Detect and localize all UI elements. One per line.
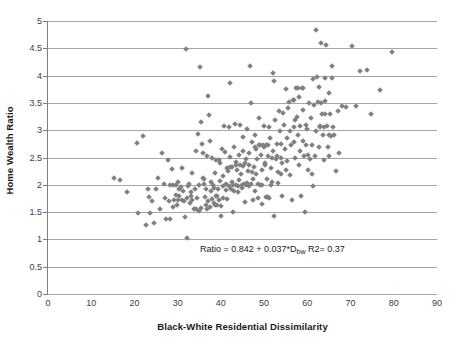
gridline (48, 21, 437, 22)
data-point (268, 165, 274, 171)
annotation-subscript: bw (297, 248, 306, 255)
data-point (247, 63, 253, 69)
y-tick-label: 2.5 (0, 153, 42, 163)
data-point (283, 167, 289, 173)
data-point (321, 157, 327, 163)
data-point (242, 199, 248, 205)
data-point (389, 49, 395, 55)
data-point (353, 103, 359, 109)
data-point (330, 63, 336, 69)
y-tick-label: 0.5 (0, 262, 42, 272)
data-point (169, 166, 175, 172)
data-point (284, 135, 290, 141)
data-point (230, 209, 236, 215)
y-tick-label: 4 (0, 71, 42, 81)
data-point (259, 201, 265, 207)
data-point (198, 119, 204, 125)
data-point (326, 90, 332, 96)
data-point (153, 186, 159, 192)
data-point (237, 122, 243, 128)
data-point (298, 193, 304, 199)
data-point (329, 75, 335, 81)
data-point (267, 135, 273, 141)
data-point (145, 186, 151, 192)
data-point (377, 87, 383, 93)
data-point (199, 142, 205, 148)
data-point (270, 148, 276, 154)
data-point (283, 86, 289, 92)
data-point (252, 189, 258, 195)
data-point (310, 184, 316, 190)
data-point (297, 124, 303, 130)
x-tick-label: 50 (244, 298, 284, 308)
data-point (222, 149, 228, 155)
data-point (259, 167, 265, 173)
y-tick-label: 1.5 (0, 207, 42, 217)
data-point (336, 150, 342, 156)
data-point (279, 193, 285, 199)
data-point (190, 170, 196, 176)
x-tick-label: 60 (287, 298, 327, 308)
data-point (313, 27, 319, 33)
data-point (212, 170, 218, 176)
data-point (155, 175, 161, 181)
data-point (368, 112, 374, 118)
data-point (272, 78, 278, 84)
data-point (117, 178, 123, 184)
data-point (218, 160, 224, 166)
gridline (48, 239, 437, 240)
scatter-chart: Home Wealth Ratio 00.511.522.533.544.55 … (0, 0, 457, 347)
data-point (309, 142, 315, 148)
data-point (292, 155, 298, 161)
data-point (221, 173, 227, 179)
data-point (280, 110, 286, 116)
data-point (287, 172, 293, 178)
data-point (167, 216, 173, 222)
data-point (227, 154, 233, 160)
data-point (159, 150, 165, 156)
data-point (195, 131, 201, 137)
x-axis-title-label: Black-White Residential Dissimilarity (157, 321, 328, 332)
data-point (296, 162, 302, 168)
data-point (285, 158, 291, 164)
data-point (304, 143, 310, 149)
data-point (273, 118, 279, 124)
data-point (278, 141, 284, 147)
data-point (318, 100, 324, 106)
data-point (289, 197, 295, 203)
x-tick-label: 70 (331, 298, 371, 308)
data-point (227, 80, 233, 86)
data-point (215, 186, 221, 192)
data-point (134, 140, 140, 146)
data-point (183, 46, 189, 52)
data-point (285, 105, 291, 111)
annotation-prefix: Ratio = 0.842 + 0.037*D (200, 244, 297, 254)
data-point (271, 213, 277, 219)
data-point (309, 171, 315, 177)
data-point (231, 144, 237, 150)
data-point (322, 111, 328, 117)
x-axis-title: Black-White Residential Dissimilarity (48, 321, 437, 332)
data-point (240, 134, 246, 140)
data-point (279, 171, 285, 177)
data-point (238, 171, 244, 177)
x-axis-line (48, 294, 437, 295)
y-tick-label: 3 (0, 125, 42, 135)
data-point (317, 84, 323, 90)
gridline (48, 212, 437, 213)
y-tick-label: 4.5 (0, 43, 42, 53)
data-point (295, 132, 301, 138)
annotation-suffix: R2= 0.37 (306, 244, 345, 254)
data-point (302, 209, 308, 215)
data-point (183, 214, 189, 220)
data-point (256, 115, 262, 121)
data-point (140, 133, 146, 139)
data-point (316, 144, 322, 150)
data-point (124, 189, 130, 195)
y-tick-label: 1 (0, 234, 42, 244)
gridline (48, 130, 437, 131)
data-point (325, 144, 331, 150)
data-point (335, 108, 341, 114)
data-point (151, 220, 157, 226)
x-tick-label: 40 (201, 298, 241, 308)
